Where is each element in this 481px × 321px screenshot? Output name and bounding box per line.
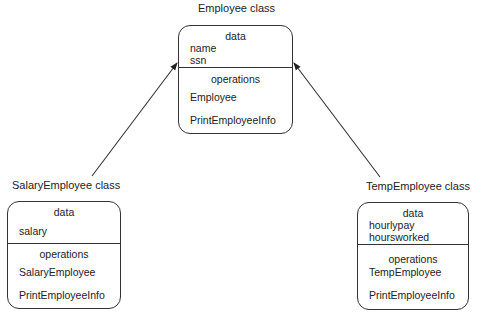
temp-data-header: data [358,207,468,219]
salary-data-header: data [8,206,120,218]
temp-divider [358,244,468,245]
arrow-temp-to-employee [294,63,380,177]
temp-operations-header: operations [358,253,468,265]
temp-data-item: hourlypay [369,219,415,231]
employee-class-box: data name ssn operations Employee PrintE… [178,25,293,134]
salary-operation: PrintEmployeeInfo [19,289,105,301]
arrow-salary-to-employee [92,63,177,176]
employee-data-header: data [179,30,292,42]
temp-employee-class-box: data hourlypay hoursworked operations Te… [357,202,469,310]
salary-operations-header: operations [8,248,120,260]
employee-class-title: Employee class [198,2,275,14]
salary-employee-class-box: data salary operations SalaryEmployee Pr… [7,201,121,309]
employee-operation: Employee [190,91,237,103]
temp-operation: PrintEmployeeInfo [369,289,455,301]
salary-employee-class-title: SalaryEmployee class [12,179,120,191]
salary-operation: SalaryEmployee [19,266,95,278]
employee-divider [179,67,292,68]
temp-data-item: hoursworked [369,231,429,243]
employee-data-item: ssn [190,54,206,66]
temp-employee-class-title: TempEmployee class [366,180,470,192]
temp-operation: TempEmployee [369,266,441,278]
employee-operation: PrintEmployeeInfo [190,114,276,126]
salary-data-item: salary [19,225,47,237]
employee-operations-header: operations [179,73,292,85]
employee-data-item: name [190,42,216,54]
salary-divider [8,243,120,244]
